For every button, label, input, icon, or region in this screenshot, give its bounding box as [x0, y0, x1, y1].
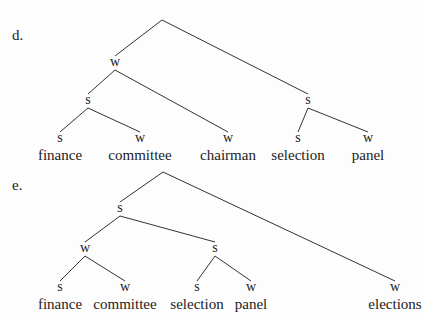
- node-label-w: w: [110, 54, 121, 69]
- word-selection: selection: [170, 296, 224, 312]
- tree-edge: [88, 108, 140, 132]
- node-label-w: w: [363, 130, 374, 145]
- word-selection: selection: [271, 147, 325, 163]
- tree-edge: [120, 216, 215, 242]
- tree-edge: [163, 172, 395, 281]
- word-finance: finance: [38, 296, 82, 312]
- node-label-s: s: [57, 130, 62, 145]
- word-panel: panel: [235, 296, 267, 312]
- node-label-w: w: [390, 279, 401, 294]
- diagram-canvas: d.wssfinancewcommitteewchairmanssselecti…: [0, 0, 424, 314]
- tree-edge: [60, 108, 88, 132]
- tree-edge: [215, 256, 251, 281]
- node-label-s: s: [117, 200, 122, 215]
- tree-edge: [60, 256, 85, 281]
- node-label-s: s: [194, 279, 199, 294]
- tree-item-label: e.: [12, 177, 22, 193]
- tree-edge: [308, 108, 368, 132]
- node-label-w: w: [120, 279, 131, 294]
- word-elections: elections: [368, 296, 421, 312]
- tree-edge: [115, 70, 228, 132]
- tree-item-label: d.: [12, 27, 23, 43]
- tree-edge: [85, 216, 120, 242]
- word-finance: finance: [38, 147, 82, 163]
- node-label-w: w: [246, 279, 257, 294]
- metrical-trees: d.wssfinancewcommitteewchairmanssselecti…: [0, 0, 424, 314]
- node-label-s: s: [295, 130, 300, 145]
- tree-edge: [197, 256, 215, 281]
- tree-edge: [115, 20, 162, 56]
- node-label-s: s: [212, 240, 217, 255]
- word-committee: committee: [93, 296, 157, 312]
- tree-edge: [162, 20, 308, 94]
- node-label-s: s: [57, 279, 62, 294]
- node-label-w: w: [135, 130, 146, 145]
- tree-d: d.wssfinancewcommitteewchairmanssselecti…: [12, 20, 384, 163]
- tree-edge: [85, 256, 125, 281]
- word-committee: committee: [108, 147, 172, 163]
- tree-e: e.swsfinancewcommitteessselectionwpanelw…: [12, 172, 422, 312]
- tree-edge: [298, 108, 308, 132]
- node-label-s: s: [305, 92, 310, 107]
- word-chairman: chairman: [200, 147, 256, 163]
- tree-edge: [120, 172, 163, 202]
- tree-edge: [88, 70, 115, 94]
- node-label-s: s: [85, 92, 90, 107]
- node-label-w: w: [80, 240, 91, 255]
- node-label-w: w: [223, 130, 234, 145]
- word-panel: panel: [352, 147, 384, 163]
